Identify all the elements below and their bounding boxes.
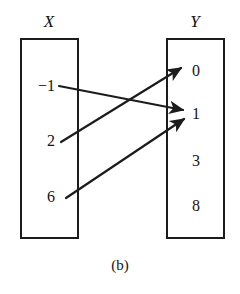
domain-element-six: 6 xyxy=(21,189,55,205)
arrow-2-to-0 xyxy=(61,68,181,142)
codomain-element-zero: 0 xyxy=(192,63,212,79)
domain-element-minus-one: −1 xyxy=(21,78,55,94)
codomain-set-label: Y xyxy=(180,13,210,30)
codomain-element-three: 3 xyxy=(192,153,212,169)
arrow-diagram-figure: X Y −1 2 6 0 1 3 8 (b) xyxy=(0,0,240,294)
domain-set-label: X xyxy=(34,13,64,30)
figure-caption: (b) xyxy=(0,258,240,273)
codomain-element-eight: 8 xyxy=(192,198,212,214)
domain-element-two: 2 xyxy=(21,133,55,149)
codomain-element-one: 1 xyxy=(192,106,212,122)
